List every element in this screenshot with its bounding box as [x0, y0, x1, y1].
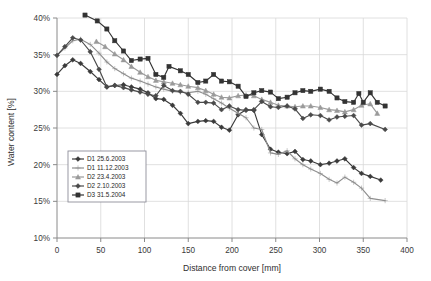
- data-point-marker: [203, 118, 208, 123]
- data-point-marker: [121, 71, 126, 76]
- data-point-marker: [196, 80, 200, 84]
- data-point-marker: [308, 112, 313, 117]
- data-point-marker: [227, 128, 232, 133]
- legend-item-label: D2 2.10.2003: [87, 182, 126, 189]
- data-point-marker: [167, 64, 171, 68]
- data-point-marker: [105, 27, 109, 31]
- data-point-marker: [204, 79, 208, 83]
- x-tick-label: 200: [225, 246, 239, 255]
- data-point-marker: [327, 118, 332, 123]
- data-point-marker: [352, 100, 356, 104]
- data-point-marker: [153, 84, 158, 89]
- data-point-marker: [318, 87, 322, 91]
- data-point-marker: [212, 72, 216, 76]
- data-point-marker: [309, 89, 313, 93]
- data-point-marker: [285, 95, 289, 99]
- data-point-marker: [268, 90, 272, 94]
- data-series: [94, 39, 380, 115]
- data-point-marker: [227, 80, 231, 84]
- y-axis-title: Water content [%]: [6, 98, 16, 166]
- data-point-marker: [308, 159, 313, 164]
- data-point-marker: [195, 119, 200, 124]
- data-point-marker: [170, 88, 175, 93]
- y-tick-label: 15%: [34, 197, 50, 206]
- x-tick-label: 350: [356, 246, 370, 255]
- data-point-marker: [236, 107, 241, 112]
- gridlines: [57, 18, 407, 238]
- data-point-marker: [335, 115, 340, 120]
- legend-item-label: D1 11.12.2003: [87, 164, 129, 171]
- legend-item-label: D2 23.4.2003: [87, 173, 126, 180]
- data-point-marker: [178, 89, 183, 94]
- data-point-marker: [154, 72, 158, 76]
- data-point-marker: [252, 91, 256, 95]
- data-point-marker: [361, 100, 365, 104]
- data-point-marker: [276, 97, 280, 101]
- data-point-marker: [378, 178, 383, 183]
- x-tick-label: 150: [181, 246, 195, 255]
- legend-item-label: D3 31.5.2004: [87, 191, 126, 198]
- y-tick-label: 35%: [34, 51, 50, 60]
- data-point-marker: [129, 58, 133, 62]
- data-point-marker: [375, 100, 379, 104]
- water-content-chart: 10%15%20%25%30%35%40%0501001502002503003…: [0, 0, 431, 281]
- x-tick-label: 300: [313, 246, 327, 255]
- data-point-marker: [103, 44, 108, 49]
- data-point-marker: [308, 166, 313, 171]
- legend-item-label: D1 25.6.2003: [87, 155, 126, 162]
- data-point-marker: [368, 174, 373, 179]
- data-point-marker: [76, 193, 80, 197]
- data-point-marker: [121, 49, 125, 53]
- data-point-marker: [318, 162, 323, 167]
- data-series: [83, 13, 387, 108]
- data-point-marker: [95, 19, 99, 23]
- y-tick-label: 20%: [34, 161, 50, 170]
- data-point-marker: [83, 13, 87, 17]
- data-point-marker: [368, 91, 372, 95]
- data-series: [55, 35, 388, 131]
- data-point-marker: [301, 89, 305, 93]
- legend[interactable]: D1 25.6.2003D1 11.12.2003D2 23.4.2003D2 …: [68, 151, 146, 202]
- y-tick-label: 10%: [34, 234, 50, 243]
- x-tick-label: 50: [96, 246, 106, 255]
- y-tick-label: 25%: [34, 124, 50, 133]
- data-point-marker: [138, 78, 143, 83]
- data-point-marker: [335, 96, 339, 100]
- data-point-marker: [146, 56, 150, 60]
- data-point-marker: [112, 83, 117, 88]
- x-axis-title: Distance from cover [mm]: [183, 263, 281, 273]
- data-point-marker: [268, 150, 273, 155]
- data-point-marker: [351, 107, 356, 112]
- data-point-marker: [357, 91, 361, 95]
- data-point-marker: [203, 100, 208, 105]
- x-tick-label: 250: [269, 246, 283, 255]
- data-point-marker: [342, 114, 347, 119]
- data-point-marker: [219, 79, 223, 83]
- data-point-marker: [145, 81, 150, 86]
- data-point-marker: [383, 104, 387, 108]
- data-point-marker: [368, 121, 373, 126]
- data-point-marker: [121, 85, 126, 90]
- data-point-marker: [293, 91, 297, 95]
- y-tick-label: 40%: [34, 14, 50, 23]
- data-point-marker: [178, 69, 182, 73]
- data-point-marker: [113, 39, 117, 43]
- data-point-marker: [327, 89, 331, 93]
- data-point-marker: [146, 74, 151, 79]
- series-polyline: [96, 41, 377, 113]
- data-point-marker: [268, 104, 273, 109]
- data-point-marker: [335, 159, 340, 164]
- x-tick-label: 100: [138, 246, 152, 255]
- data-point-marker: [244, 94, 248, 98]
- x-tick-label: 0: [55, 246, 60, 255]
- data-point-marker: [260, 89, 264, 93]
- data-point-marker: [138, 57, 142, 61]
- x-tick-label: 400: [400, 246, 414, 255]
- data-point-marker: [129, 76, 134, 81]
- y-tick-label: 30%: [34, 87, 50, 96]
- data-point-marker: [383, 198, 388, 203]
- chart-svg: 10%15%20%25%30%35%40%0501001502002503003…: [0, 0, 431, 281]
- data-point-marker: [186, 72, 190, 76]
- data-point-marker: [94, 39, 99, 44]
- data-point-marker: [343, 100, 347, 104]
